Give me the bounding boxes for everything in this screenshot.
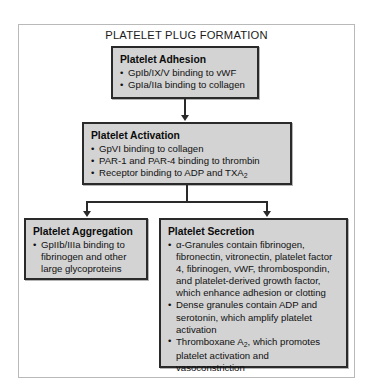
bullet-list-activation: GpVI binding to collagen PAR-1 and PAR-4… (91, 143, 284, 182)
list-item-text: Receptor binding to ADP and TXA (99, 167, 244, 178)
list-item: GpIa/IIa binding to collagen (120, 79, 251, 91)
bullet-list-adhesion: GpIb/IX/V binding to vWF GpIa/IIa bindin… (120, 67, 251, 91)
list-item-continuation: large glycoproteins (33, 263, 140, 275)
subscript-two: 2 (244, 172, 248, 179)
connector-adhesion-to-activation (184, 99, 186, 116)
list-item-text: -Granules contain fibrinogen, (182, 239, 305, 250)
list-item-continuation: platelet activation and vasoconstriction (168, 350, 340, 374)
bullet-list-aggregation: GpIIb/IIIa binding to fibrinogen and oth… (33, 239, 140, 275)
list-item-continuation: which enhance adhesion or clotting (168, 287, 340, 299)
arrow-head-icon (83, 211, 91, 217)
arrow-head-icon (181, 115, 189, 121)
list-item-continuation: fibrinogen and other (33, 251, 140, 263)
connector-activation-stem (186, 185, 188, 202)
node-platelet-secretion: Platelet Secretion α-Granules contain fi… (159, 218, 348, 368)
list-item-continuation: activation (168, 324, 340, 336)
node-title-secretion: Platelet Secretion (168, 225, 340, 238)
list-item-continuation: serotonin, which amplify platelet (168, 312, 340, 324)
list-item-text-tail: , which promotes (248, 336, 321, 347)
list-item: GpVI binding to collagen (91, 143, 284, 155)
list-item-text: Thromboxane A (176, 336, 244, 347)
node-title-adhesion: Platelet Adhesion (120, 53, 251, 66)
list-item: α-Granules contain fibrinogen, (168, 239, 340, 251)
list-item-continuation: 4, fibrinogen, vWF, thrombospondin, (168, 263, 340, 275)
list-item: Dense granules contain ADP and (168, 299, 340, 311)
list-item: PAR-1 and PAR-4 binding to thrombin (91, 155, 284, 167)
list-item: Thromboxane A2, which promotes (168, 336, 340, 351)
list-item: Receptor binding to ADP and TXA2 (91, 167, 284, 182)
bullet-list-secretion: α-Granules contain fibrinogen, fibronect… (168, 239, 340, 375)
list-item: GpIb/IX/V binding to vWF (120, 67, 251, 79)
list-item-continuation: fibronectin, vitronectin, platelet facto… (168, 251, 340, 263)
node-title-aggregation: Platelet Aggregation (33, 225, 140, 238)
arrow-head-icon (263, 211, 271, 217)
node-platelet-activation: Platelet Activation GpVI binding to coll… (82, 122, 292, 185)
list-item-continuation: and platelet-derived growth factor, (168, 275, 340, 287)
connector-branch-bar (86, 201, 268, 203)
node-title-activation: Platelet Activation (91, 129, 284, 142)
diagram-page: PLATELET PLUG FORMATION Platelet Adhesio… (0, 0, 371, 386)
node-platelet-aggregation: Platelet Aggregation GpIIb/IIIa binding … (24, 218, 148, 280)
page-title: PLATELET PLUG FORMATION (18, 29, 355, 41)
node-platelet-adhesion: Platelet Adhesion GpIb/IX/V binding to v… (111, 46, 259, 99)
list-item: GpIIb/IIIa binding to (33, 239, 140, 251)
